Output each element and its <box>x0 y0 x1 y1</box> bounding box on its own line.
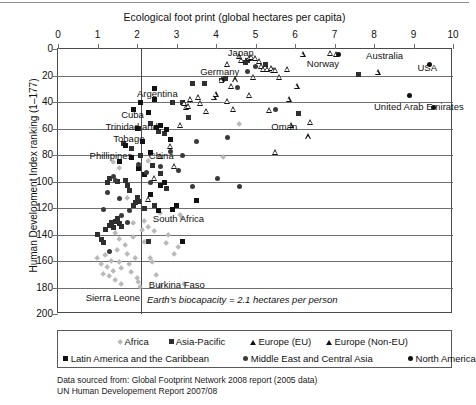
legend-item[interactable]: Middle East and Central Asia <box>243 353 373 364</box>
data-point <box>186 115 191 120</box>
data-point <box>232 76 238 82</box>
data-point <box>176 168 181 173</box>
data-point <box>236 121 242 127</box>
data-point <box>294 83 300 89</box>
data-point <box>95 232 100 237</box>
point-label: Sierra Leone <box>86 292 140 303</box>
legend-item-label: Asia-Pacific <box>174 336 226 347</box>
point-label: USA <box>417 62 437 73</box>
data-point <box>124 251 130 257</box>
data-point <box>250 74 256 80</box>
legend-item[interactable]: Europe (EU) <box>250 336 311 347</box>
data-point <box>119 213 124 218</box>
data-point <box>127 208 132 213</box>
y-tick-label: 0 <box>25 43 53 54</box>
data-point <box>407 93 412 98</box>
data-point <box>224 98 230 104</box>
x-tick <box>177 44 178 49</box>
x-tick <box>295 44 296 49</box>
data-point <box>195 94 201 100</box>
data-point <box>375 69 381 75</box>
y-tick-label: 200 <box>25 308 53 319</box>
data-point <box>197 100 203 106</box>
data-point <box>158 123 163 128</box>
data-point <box>130 220 136 226</box>
data-point <box>151 175 157 181</box>
data-point <box>235 85 240 90</box>
data-point <box>123 178 128 183</box>
x-tick <box>453 44 454 49</box>
data-point <box>116 165 122 171</box>
y-tick <box>53 182 58 183</box>
y-tick <box>53 208 58 209</box>
data-point <box>276 74 282 80</box>
legend-triangle-icon <box>326 340 332 345</box>
data-point <box>101 240 106 245</box>
data-point <box>122 242 128 248</box>
data-point <box>116 236 122 242</box>
legend-item[interactable]: North America <box>408 353 476 364</box>
y-tick-label: 160 <box>25 255 53 266</box>
x-tick-label: 8 <box>363 29 385 40</box>
point-label: United Arab Emirates <box>374 101 464 112</box>
point-label: Oman <box>271 121 297 132</box>
y-tick-label: 100 <box>25 176 53 187</box>
legend-item-label: Africa <box>122 336 148 347</box>
data-point <box>170 100 175 105</box>
data-point <box>190 184 195 189</box>
data-point <box>230 106 236 112</box>
point-label: Cuba <box>121 109 144 120</box>
data-point <box>111 225 116 230</box>
data-point <box>164 186 169 191</box>
legend-item[interactable]: Asia-Pacific <box>169 336 226 347</box>
legend-square-icon <box>63 356 68 361</box>
data-point <box>113 178 118 183</box>
y-tick-label: 60 <box>25 123 53 134</box>
legend-item[interactable]: Latin America and the Caribbean <box>63 353 209 364</box>
x-tick-label: 0 <box>47 29 69 40</box>
data-point <box>202 81 207 86</box>
data-point <box>336 52 341 57</box>
data-point <box>141 218 147 224</box>
source-line-2: UN Human Developement Report 2007/08 <box>57 386 317 397</box>
x-tick-label: 10 <box>442 29 464 40</box>
data-point <box>128 270 134 276</box>
data-point <box>158 171 163 176</box>
legend-item[interactable]: Europe (Non-EU) <box>326 336 408 347</box>
data-point <box>144 170 149 175</box>
data-point <box>228 83 234 89</box>
point-label: Burkina Faso <box>149 279 205 290</box>
y-tick-label: 120 <box>25 202 53 213</box>
data-point <box>253 64 258 69</box>
y-tick <box>53 288 58 289</box>
point-label: Phillipines <box>90 150 133 161</box>
data-point <box>177 122 183 128</box>
x-tick-label: 3 <box>166 29 188 40</box>
y-tick-label: 140 <box>25 229 53 240</box>
legend-row-2: Latin America and the Caribbean Middle E… <box>58 350 453 369</box>
legend-item[interactable]: Africa <box>118 336 149 347</box>
data-point <box>140 227 146 233</box>
data-point <box>246 92 252 98</box>
data-point <box>225 135 230 140</box>
data-point <box>171 251 177 257</box>
data-point <box>180 153 185 158</box>
legend: Africa Asia-Pacific Europe (EU) Europe (… <box>57 330 452 368</box>
data-point <box>168 137 173 142</box>
data-point <box>327 50 333 56</box>
legend-circle-icon <box>408 356 413 361</box>
data-point <box>142 206 147 211</box>
data-point <box>106 273 112 279</box>
data-point <box>146 110 151 115</box>
legend-square-icon <box>169 339 174 344</box>
data-point <box>219 76 225 82</box>
point-label: China <box>149 150 174 161</box>
data-point <box>105 190 110 195</box>
point-label: Argentina <box>137 88 178 99</box>
data-point <box>125 183 130 188</box>
data-point <box>124 195 130 201</box>
legend-triangle-icon <box>250 340 256 345</box>
x-tick <box>335 44 336 49</box>
data-point <box>165 232 171 238</box>
